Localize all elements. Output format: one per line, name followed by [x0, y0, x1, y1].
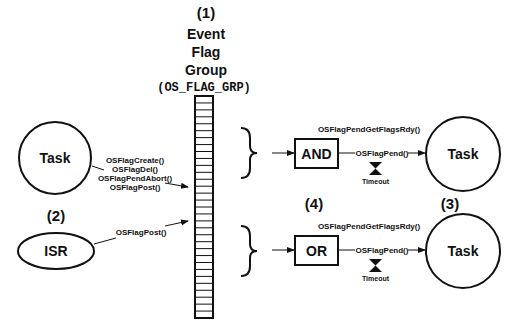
- group-number-label: (1): [197, 4, 215, 21]
- and-brace-icon: [241, 128, 257, 178]
- or-gate-box: OR: [295, 236, 338, 265]
- or-task-label: Task: [448, 243, 479, 259]
- call-osflagpendabort: OSFlagPendAbort(): [98, 174, 173, 183]
- or-timeout-label: Timeout: [362, 275, 390, 282]
- group-title-line-1: Event: [187, 26, 225, 42]
- and-gate-box: AND: [295, 139, 338, 168]
- or-timeout-hourglass-icon: [369, 259, 382, 272]
- source-task-label: Task: [40, 150, 71, 166]
- source-task-node: Task: [19, 122, 91, 194]
- isr-to-group-arrow-icon: [165, 221, 188, 226]
- and-waiting-task-node: Task: [426, 117, 500, 191]
- task-to-group-arrow-icon: [165, 183, 188, 187]
- task-connector-line: [92, 166, 104, 170]
- sources-number-label: (2): [47, 207, 65, 224]
- and-task-label: Task: [448, 146, 479, 162]
- waiters-number-label: (3): [441, 195, 459, 212]
- group-title-line-2: Flag: [192, 44, 221, 60]
- call-osflagpost: OSFlagPost(): [110, 183, 161, 192]
- logic-number-label: (4): [305, 195, 323, 212]
- or-get-flags-call: OSFlagPendGetFlagsRdy(): [318, 222, 421, 231]
- and-timeout-label: Timeout: [362, 178, 390, 185]
- isr-connector-line: [94, 238, 116, 244]
- isr-call-osflagpost: OSFlagPost(): [116, 228, 167, 237]
- and-get-flags-call: OSFlagPendGetFlagsRdy(): [318, 125, 421, 134]
- isr-label: ISR: [44, 243, 67, 259]
- and-timeout-hourglass-icon: [369, 162, 382, 175]
- event-flag-diagram: (1) Event Flag Group (OS_FLAG_GRP) Task …: [0, 0, 515, 333]
- group-title-line-3: Group: [185, 62, 227, 78]
- event-flag-column: [195, 96, 213, 318]
- and-pend-call: OSFlagPend(): [356, 149, 409, 158]
- task-calls-list: OSFlagCreate() OSFlagDel() OSFlagPendAbo…: [98, 156, 173, 192]
- source-isr-node: ISR: [18, 233, 94, 269]
- call-osflagcreate: OSFlagCreate(): [106, 156, 165, 165]
- or-brace-icon: [241, 226, 257, 276]
- or-gate-label: OR: [306, 243, 327, 259]
- or-pend-call: OSFlagPend(): [356, 246, 409, 255]
- and-gate-label: AND: [301, 146, 331, 162]
- group-type-name: (OS_FLAG_GRP): [157, 81, 251, 95]
- or-waiting-task-node: Task: [426, 214, 500, 288]
- call-osflagdel: OSFlagDel(): [112, 165, 158, 174]
